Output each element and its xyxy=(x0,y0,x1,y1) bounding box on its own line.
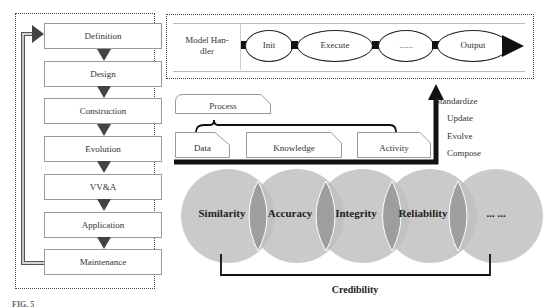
figure-caption: FIG. 5 xyxy=(12,300,34,308)
credibility-title: Credibility xyxy=(300,284,410,295)
credibility-bracket xyxy=(0,0,545,308)
